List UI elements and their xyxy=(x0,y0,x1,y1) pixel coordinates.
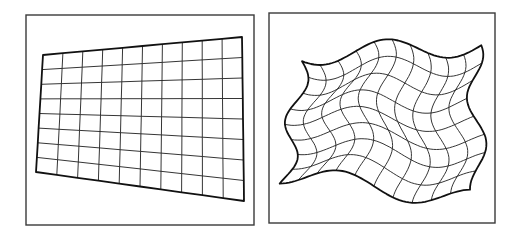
grid-row-line xyxy=(290,90,467,113)
grid-column-line xyxy=(336,51,361,170)
perspective-grid xyxy=(37,39,244,198)
grid-column-line xyxy=(374,39,396,186)
grid-column-line xyxy=(412,53,431,203)
perspective-grid-panel xyxy=(26,15,254,225)
grid-column-line xyxy=(317,61,344,174)
grid-column-line xyxy=(298,65,326,180)
nonlinear-warp-panel xyxy=(269,13,495,223)
grid-row-line xyxy=(285,106,474,131)
grid-column-line xyxy=(431,58,449,201)
grid-warp-figure xyxy=(0,0,522,238)
grid-column-line xyxy=(449,55,468,194)
